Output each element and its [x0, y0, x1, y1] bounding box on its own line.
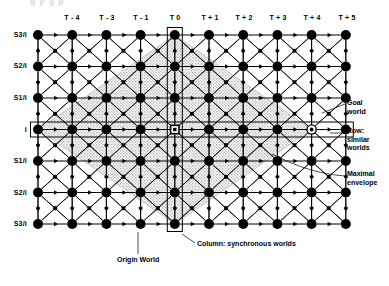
row-label-s1-top: S1/i [0, 94, 27, 102]
column-label-t-plus-4: T + 4 [303, 14, 320, 22]
column-label-t-plus-1: T + 1 [201, 14, 218, 22]
row-label-s2-top: S2/i [0, 62, 27, 70]
column-label-t-4: T - 4 [64, 14, 79, 22]
annotation-column-synchronous-worlds: Column: synchronous worlds [197, 240, 296, 249]
column-label-t-plus-2: T + 2 [235, 14, 252, 22]
row-label-s3-top: S3/i [0, 31, 27, 39]
row-label-s1-bottom: S1/i [0, 157, 27, 165]
column-label-t-plus-3: T + 3 [269, 14, 286, 22]
annotation-row-similar-worlds: Row: similar worlds [347, 127, 370, 153]
column-label-t-plus-5: T + 5 [338, 14, 355, 22]
figure-root: g p g p T - 4 T - 3 T - 1 T 0 T + 1 T + … [0, 0, 389, 286]
row-label-s2-bottom: S2/i [0, 189, 27, 197]
column-label-t0: T 0 [170, 14, 181, 22]
lattice-diagram-canvas [0, 0, 389, 286]
column-label-t-1: T - 1 [133, 14, 148, 22]
row-label-s3-bottom: S3/i [0, 220, 27, 228]
column-label-t-3: T - 3 [99, 14, 114, 22]
row-label-i: i [0, 126, 27, 134]
annotation-goal-world: Goal world [347, 99, 366, 116]
annotation-origin-world: Origin World [117, 256, 159, 265]
annotation-maximal-envelope: Maximal envelope [347, 170, 377, 187]
